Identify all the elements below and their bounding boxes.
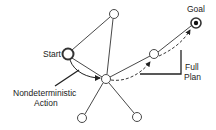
goal-bullseye-icon (194, 21, 198, 25)
edge-start-top (72, 17, 110, 50)
nondeterministic-action-arc (70, 60, 100, 78)
full-plan-path-1 (111, 62, 150, 80)
node-right-middle (150, 50, 159, 59)
node-start (63, 49, 74, 60)
edge-top-center (107, 19, 113, 74)
label-action-line1: Nondeterministic (13, 88, 77, 98)
edge-center-bottomleft (85, 83, 103, 114)
full-plan-bracket (140, 50, 181, 74)
label-plan-line1: Full (185, 62, 199, 72)
node-center (102, 75, 111, 84)
node-top (110, 10, 119, 19)
label-plan-line2: Plan (184, 72, 201, 82)
action-pointer-line (55, 70, 79, 86)
edge-center-bottomright (109, 83, 134, 113)
full-plan-path-2 (159, 30, 190, 56)
label-action-line2: Action (34, 98, 58, 108)
node-bottom-left (78, 114, 87, 123)
edge-right-goal (158, 26, 191, 52)
label-goal: Goal (187, 4, 205, 14)
label-start: Start (43, 49, 62, 59)
edge-start-center (72, 58, 102, 77)
plan-diagram: Start Goal Nondeterministic Action Full … (0, 0, 216, 130)
node-bottom-right (133, 113, 142, 122)
